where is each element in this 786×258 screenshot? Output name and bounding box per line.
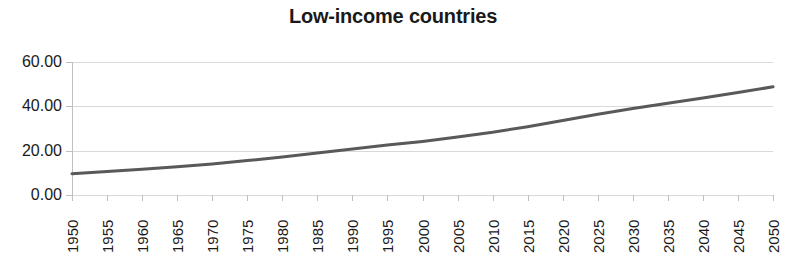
- x-axis-tick-label-text: 1980: [277, 220, 288, 253]
- x-axis-tick-label: 2015: [534, 252, 535, 253]
- x-axis-tick-label-text: 1960: [137, 220, 148, 253]
- x-axis-tick-label: 2040: [709, 252, 710, 253]
- x-axis-tick-label-text: 1985: [312, 220, 323, 253]
- x-axis-tick-label-text: 2025: [593, 220, 604, 253]
- x-axis-tick-label: 2050: [779, 252, 780, 253]
- x-axis-tick: [703, 195, 704, 201]
- x-axis-tick: [773, 195, 774, 201]
- x-axis-tick: [282, 195, 283, 201]
- x-axis-tick-label-text: 1955: [102, 220, 113, 253]
- x-axis-tick-label: 1960: [148, 252, 149, 253]
- x-axis-tick: [458, 195, 459, 201]
- chart-container: Low-income countries 60.0040.0020.000.00…: [0, 0, 786, 258]
- x-axis-tick: [528, 195, 529, 201]
- x-axis-tick-label: 1990: [358, 252, 359, 253]
- x-axis-tick-label-text: 2020: [558, 220, 569, 253]
- x-axis-tick: [247, 195, 248, 201]
- y-axis-labels: 60.0040.0020.000.00: [0, 0, 62, 258]
- x-axis-tick-label-text: 2050: [768, 220, 779, 253]
- x-axis-tick: [738, 195, 739, 201]
- x-axis-tick-label: 2020: [569, 252, 570, 253]
- x-axis-tick-label: 1955: [113, 252, 114, 253]
- x-axis-tick-label: 1950: [78, 252, 79, 253]
- x-axis-tick-label: 2035: [674, 252, 675, 253]
- plot-area: [72, 62, 773, 195]
- x-axis-tick-label-text: 1965: [172, 220, 183, 253]
- x-axis-tick: [633, 195, 634, 201]
- gridline: [72, 151, 773, 152]
- x-axis-tick: [493, 195, 494, 201]
- x-axis-tick-label: 1980: [288, 252, 289, 253]
- x-axis-tick-label-text: 2030: [628, 220, 639, 253]
- x-axis-tick: [107, 195, 108, 201]
- chart-title: Low-income countries: [0, 2, 786, 30]
- x-axis-tick-label-text: 2010: [488, 220, 499, 253]
- x-axis-tick-label-text: 1950: [67, 220, 78, 253]
- x-axis-tick-label: 1985: [323, 252, 324, 253]
- y-axis-tick-label: 60.00: [4, 54, 62, 70]
- x-axis-tick-label-text: 2035: [663, 220, 674, 253]
- x-axis-tick: [212, 195, 213, 201]
- x-axis-tick-label-text: 1975: [242, 220, 253, 253]
- x-axis-tick: [317, 195, 318, 201]
- y-axis-tick-label: 20.00: [4, 143, 62, 159]
- x-axis-tick: [142, 195, 143, 201]
- y-axis-tick-label: 0.00: [4, 187, 62, 203]
- x-axis-tick: [387, 195, 388, 201]
- x-axis-tick-label: 2025: [604, 252, 605, 253]
- x-axis-tick-label: 2005: [464, 252, 465, 253]
- x-axis-tick: [423, 195, 424, 201]
- x-axis-tick: [177, 195, 178, 201]
- x-axis-tick-label-text: 2040: [698, 220, 709, 253]
- x-axis-tick-label: 2000: [429, 252, 430, 253]
- x-axis-tick: [563, 195, 564, 201]
- x-axis-tick-label-text: 1990: [347, 220, 358, 253]
- y-axis-tick: [66, 151, 73, 152]
- x-axis-tick-label: 1970: [218, 252, 219, 253]
- x-axis-tick: [352, 195, 353, 201]
- x-axis-tick-label-text: 1995: [382, 220, 393, 253]
- y-axis-tick-label: 40.00: [4, 98, 62, 114]
- x-axis-tick: [668, 195, 669, 201]
- x-axis-tick-label: 1975: [253, 252, 254, 253]
- gridline: [72, 62, 773, 63]
- y-axis-tick: [66, 62, 73, 63]
- x-axis-tick-label-text: 1970: [207, 220, 218, 253]
- x-axis-tick-label-text: 2000: [418, 220, 429, 253]
- x-axis-tick-label: 1995: [393, 252, 394, 253]
- x-axis-tick-label-text: 2045: [733, 220, 744, 253]
- x-axis-tick-label: 2030: [639, 252, 640, 253]
- gridline: [72, 106, 773, 107]
- x-axis-tick-label: 2045: [744, 252, 745, 253]
- x-axis-tick: [598, 195, 599, 201]
- x-axis-tick: [72, 195, 73, 201]
- y-axis-tick: [66, 106, 73, 107]
- x-axis-tick-label-text: 2015: [523, 220, 534, 253]
- x-axis-tick-label: 1965: [183, 252, 184, 253]
- x-axis-tick-label: 2010: [499, 252, 500, 253]
- x-axis-tick-label-text: 2005: [453, 220, 464, 253]
